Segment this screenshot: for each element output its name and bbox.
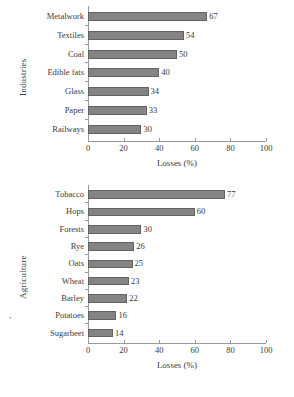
y-axis-tick: [85, 202, 88, 203]
y-axis-tick: [85, 220, 88, 221]
category-label: Coal: [14, 50, 84, 59]
bar-value-label: 60: [197, 207, 206, 216]
bar-row: Wheat23: [0, 277, 294, 286]
y-axis-tick: [85, 81, 88, 82]
category-label: Oats: [14, 259, 84, 268]
bar-value-label: 22: [129, 294, 138, 303]
category-label: Textiles: [14, 31, 84, 40]
category-label: Hops: [14, 207, 84, 216]
y-axis-tick: [85, 25, 88, 26]
x-axis-tick: [230, 138, 231, 141]
x-axis-tick: [230, 340, 231, 343]
x-axis-tick: [266, 138, 267, 141]
y-axis-tick: [85, 272, 88, 273]
category-label: Wheat: [14, 277, 84, 286]
bar: [88, 260, 133, 269]
x-axis-title-industries: Losses (%): [157, 158, 197, 168]
bar-row: Oats25: [0, 260, 294, 269]
bar: [88, 125, 141, 134]
x-axis-tick: [195, 340, 196, 343]
bar-value-label: 34: [151, 87, 160, 96]
category-label: Forests: [14, 225, 84, 234]
y-axis-tick: [85, 254, 88, 255]
bar: [88, 277, 129, 286]
x-axis-title-agriculture: Losses (%): [157, 360, 197, 370]
bar-value-label: 23: [131, 277, 140, 286]
bar: [88, 208, 195, 217]
bar: [88, 31, 184, 40]
x-axis-tick-label: 100: [260, 144, 273, 153]
y-axis-tick: [85, 62, 88, 63]
x-axis-tick-label: 60: [191, 144, 200, 153]
x-axis-tick-label: 0: [86, 144, 90, 153]
bar-value-label: 30: [143, 125, 152, 134]
category-label: Railways: [14, 125, 84, 134]
bar: [88, 50, 177, 59]
x-axis-line-agriculture: [88, 343, 266, 344]
x-axis-tick: [124, 138, 125, 141]
x-axis-tick: [88, 138, 89, 141]
chart-industries: IndustriesMetalwork67Textiles54Coal50Edi…: [0, 0, 294, 178]
x-axis-tick: [88, 340, 89, 343]
bar: [88, 106, 147, 115]
x-axis-tick-label: 100: [260, 346, 273, 355]
bar-value-label: 14: [115, 329, 124, 338]
stray-ink-mark: •: [9, 315, 11, 322]
bar-value-label: 30: [143, 225, 152, 234]
bar-row: Paper33: [0, 106, 294, 115]
bar-row: Railways30: [0, 125, 294, 134]
category-label: Glass: [14, 87, 84, 96]
chart-agriculture: AgricultureTobacco77Hops60Forests30Rye26…: [0, 178, 294, 397]
bar-row: Sugarbeet14: [0, 329, 294, 338]
y-axis-tick: [85, 306, 88, 307]
bar: [88, 329, 113, 338]
category-label: Potatoes: [14, 311, 84, 320]
bar-value-label: 54: [186, 31, 195, 40]
bar-row: Textiles54: [0, 31, 294, 40]
x-axis-tick-label: 40: [155, 144, 164, 153]
bar-row: Barley22: [0, 294, 294, 303]
bar: [88, 68, 159, 77]
bar-value-label: 77: [227, 190, 236, 199]
x-axis-tick-label: 60: [191, 346, 200, 355]
y-axis-tick: [85, 323, 88, 324]
x-axis-tick-label: 20: [119, 346, 128, 355]
bar-row: Hops60: [0, 208, 294, 217]
x-axis-tick-label: 80: [226, 144, 235, 153]
bar: [88, 12, 207, 21]
bar-row: Rye26: [0, 242, 294, 251]
bar: [88, 294, 127, 303]
category-label: Metalwork: [14, 12, 84, 21]
x-axis-tick: [159, 340, 160, 343]
category-label: Tobacco: [14, 190, 84, 199]
bar: [88, 242, 134, 251]
bar-value-label: 40: [161, 68, 170, 77]
bar-row: Metalwork67: [0, 12, 294, 21]
category-label: Edible fats: [14, 68, 84, 77]
x-axis-line-industries: [88, 141, 266, 142]
x-axis-tick-label: 0: [86, 346, 90, 355]
bar-value-label: 33: [149, 106, 158, 115]
bar-value-label: 25: [135, 259, 144, 268]
bar-row: Forests30: [0, 225, 294, 234]
bar-row: Edible fats40: [0, 68, 294, 77]
x-axis-tick-label: 40: [155, 346, 164, 355]
x-axis-tick: [124, 340, 125, 343]
y-axis-tick: [85, 119, 88, 120]
bar-row: Glass34: [0, 87, 294, 96]
bar: [88, 311, 116, 320]
category-label: Paper: [14, 106, 84, 115]
x-axis-tick-label: 80: [226, 346, 235, 355]
y-axis-tick: [85, 237, 88, 238]
category-label: Rye: [14, 242, 84, 251]
bar: [88, 87, 149, 96]
y-axis-tick: [85, 100, 88, 101]
bar-row: Tobacco77: [0, 190, 294, 199]
x-axis-tick: [195, 138, 196, 141]
bar-value-label: 16: [118, 311, 127, 320]
category-label: Barley: [14, 294, 84, 303]
bar-value-label: 67: [209, 12, 218, 21]
bar: [88, 225, 141, 234]
category-label: Sugarbeet: [14, 329, 84, 338]
y-axis-tick: [85, 44, 88, 45]
